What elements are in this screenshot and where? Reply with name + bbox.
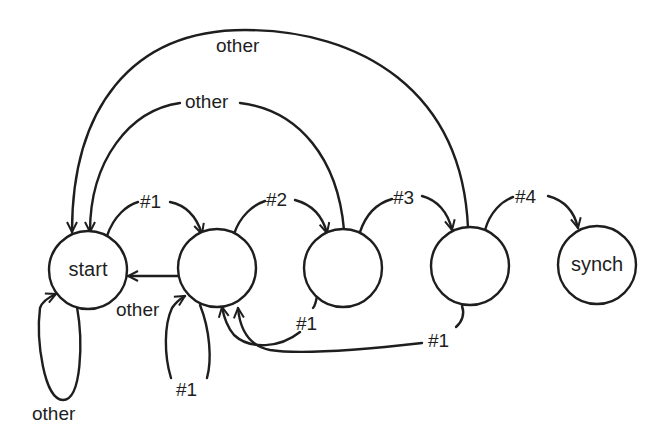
- edge-label: #1: [428, 330, 449, 351]
- edge-label: other: [116, 299, 160, 320]
- state-s3: [431, 227, 509, 305]
- state-diagram: other other #1 #2 #3 #4 other other: [0, 0, 661, 443]
- state-label: synch: [571, 253, 623, 275]
- edge-label: #1: [296, 313, 317, 334]
- edge-label: #3: [393, 187, 414, 208]
- edge-s2-to-start-other: other: [90, 91, 344, 232]
- state-synch: synch: [558, 226, 636, 304]
- state-start: start: [49, 231, 127, 309]
- edge-start-to-s1: #1: [107, 191, 202, 236]
- edge-s2-to-s1: #1: [222, 296, 317, 345]
- edge-start-self-loop: other: [32, 294, 80, 424]
- edge-label: #1: [140, 191, 161, 212]
- edge-s1-to-s2: #2: [234, 189, 327, 234]
- edge-label: other: [216, 35, 260, 56]
- state-label: start: [69, 258, 108, 280]
- state-s1: [178, 229, 256, 307]
- edge-label: other: [32, 403, 76, 424]
- edge-label: #2: [266, 189, 287, 210]
- edge-label: other: [185, 91, 229, 112]
- edge-s3-to-synch: #4: [485, 186, 578, 230]
- edge-label: #4: [515, 186, 537, 207]
- edge-s1-self-loop: #1: [166, 296, 210, 400]
- edge-s2-to-s3: #3: [360, 187, 452, 232]
- state-s2: [304, 229, 382, 307]
- edge-label: #1: [176, 379, 197, 400]
